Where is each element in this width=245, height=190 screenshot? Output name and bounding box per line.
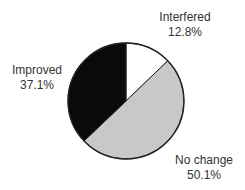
slice-value-text: 37.1% [6, 78, 68, 93]
slice-value-text: 12.8% [150, 25, 220, 40]
slice-label-improved: Improved 37.1% [6, 63, 68, 93]
slice-label-text: Interfered [150, 10, 220, 25]
slice-label-text: No change [168, 153, 240, 168]
slice-label-text: Improved [6, 63, 68, 78]
slice-label-interfered: Interfered 12.8% [150, 10, 220, 40]
slice-value-text: 50.1% [168, 168, 240, 183]
slice-label-no-change: No change 50.1% [168, 153, 240, 183]
